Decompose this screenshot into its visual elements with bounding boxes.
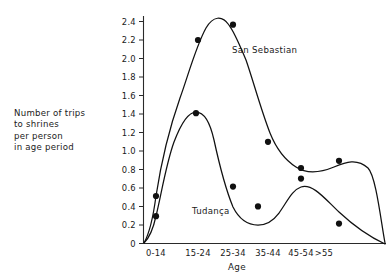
y-tick-label: 0.4 bbox=[122, 202, 136, 212]
y-tick-label: 1.2 bbox=[122, 128, 136, 138]
x-axis-tick-labels: 0-14 15-24 25-34 35-44 45-54 >55 bbox=[146, 248, 333, 258]
y-tick-label: 2.0 bbox=[122, 54, 136, 64]
y-tick-label: 2.4 bbox=[122, 17, 136, 27]
series-markers-tudanca bbox=[153, 110, 342, 227]
x-tick-label: 35-44 bbox=[255, 248, 280, 258]
x-tick-label: 45-54 bbox=[288, 248, 313, 258]
y-tick-label: 1.6 bbox=[122, 91, 136, 101]
y-tick-label: 1.4 bbox=[122, 109, 136, 119]
x-tick-label: >55 bbox=[315, 248, 333, 258]
y-tick-label: 0 bbox=[130, 239, 136, 249]
chart-figure: Number of trips to shrines per person in… bbox=[0, 0, 392, 273]
series-label-tudanca: Tudança bbox=[191, 206, 230, 216]
y-tick-label: 1.8 bbox=[122, 72, 136, 82]
chart-plot-area: 2.4 2.2 2.0 1.8 1.6 1.4 1.2 1.0 0.8 0.6 … bbox=[0, 0, 392, 273]
y-tick-label: 0.6 bbox=[122, 183, 136, 193]
x-tick-label: 15-24 bbox=[185, 248, 210, 258]
series-line-tudanca bbox=[144, 112, 385, 244]
x-axis-title: Age bbox=[228, 262, 246, 272]
y-tick-label: 0.2 bbox=[122, 220, 136, 230]
series-label-san-sebastian: San Sebastian bbox=[232, 45, 297, 55]
y-tick-label: 0.8 bbox=[122, 165, 136, 175]
y-axis-tick-labels: 2.4 2.2 2.0 1.8 1.6 1.4 1.2 1.0 0.8 0.6 … bbox=[122, 17, 136, 249]
y-tick-label: 1.0 bbox=[122, 146, 136, 156]
x-tick-label: 25-34 bbox=[220, 248, 245, 258]
y-tick-label: 2.2 bbox=[122, 35, 136, 45]
x-tick-label: 0-14 bbox=[146, 248, 166, 258]
y-axis-ticks bbox=[139, 22, 144, 244]
